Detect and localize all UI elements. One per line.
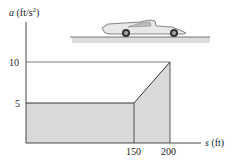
x-axis-label: s (ft) [205,137,224,149]
acceleration-distance-chart: a (ft/s2) 10 5 150 200 s (ft) [0,0,237,163]
x-tick-150: 150 [126,146,141,157]
race-car-illustration [70,20,210,43]
y-axis-label: a (ft/s2) [9,6,39,19]
y-tick-10: 10 [9,57,19,68]
x-tick-200: 200 [161,146,176,157]
y-tick-5: 5 [15,98,20,109]
